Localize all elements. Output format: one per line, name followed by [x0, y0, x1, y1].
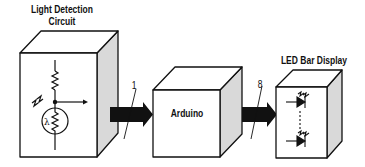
led-bar-block	[276, 70, 342, 158]
light-detection-block	[20, 31, 118, 157]
arduino-label: Arduino	[166, 108, 209, 120]
light-box-front	[20, 53, 97, 157]
lambda-symbol: λ	[44, 117, 50, 127]
led-bar-display-label: LED Bar Display	[278, 55, 349, 67]
light-detection-label-line1: Light Detection	[28, 4, 96, 16]
bus-width-label-1: 1	[129, 80, 139, 92]
light-detection-label-line2: Circuit	[28, 16, 96, 28]
bus-width-label-8: 8	[255, 79, 265, 91]
diagram-canvas: λ	[0, 0, 365, 167]
arrow-arduino-to-led	[242, 86, 277, 139]
